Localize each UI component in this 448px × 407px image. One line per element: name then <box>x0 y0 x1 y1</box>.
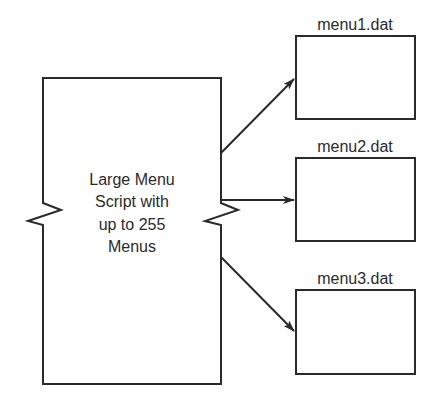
menu1-box <box>296 36 415 119</box>
arrow-to-menu1 <box>221 79 294 153</box>
arrow-to-menu3 <box>221 257 294 331</box>
source-box-line-4: Menus <box>108 238 156 255</box>
menu1-label: menu1.dat <box>317 16 393 33</box>
target-menu2: menu2.dat <box>296 138 415 241</box>
source-script-box: Large Menu Script with up to 255 Menus <box>28 78 238 384</box>
menu2-box <box>296 158 415 241</box>
menu3-label: menu3.dat <box>317 270 393 287</box>
menu3-box <box>296 290 415 374</box>
source-box-line-3: up to 255 <box>99 216 166 233</box>
source-box-line-1: Large Menu <box>89 171 174 188</box>
diagram-canvas: Large Menu Script with up to 255 Menus m… <box>0 0 448 407</box>
target-menu3: menu3.dat <box>296 270 415 374</box>
menu2-label: menu2.dat <box>317 138 393 155</box>
source-box-line-2: Script with <box>95 193 169 210</box>
target-menu1: menu1.dat <box>296 16 415 119</box>
